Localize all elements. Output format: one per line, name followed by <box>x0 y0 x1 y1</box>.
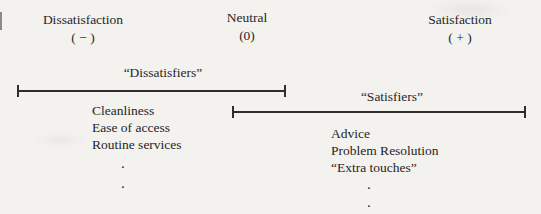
list-item: Routine services <box>92 136 182 153</box>
pole-satisfaction: Satisfaction ( + ) <box>400 11 520 47</box>
list-item: Ease of access <box>92 119 182 136</box>
pole-dissatisfaction-sign: ( − ) <box>23 29 143 47</box>
list-item: Cleanliness <box>92 102 182 119</box>
ellipsis-dot: . <box>121 157 125 169</box>
pole-dissatisfaction-label: Dissatisfaction <box>23 11 143 29</box>
ellipsis-dot: . <box>121 177 125 189</box>
pole-satisfaction-sign: ( + ) <box>400 29 520 47</box>
ellipsis-dot: . <box>367 196 371 208</box>
satisfiers-right-endcap <box>524 106 526 118</box>
dissatisfiers-range-bar <box>17 85 286 97</box>
satisfiers-range-line <box>232 111 526 113</box>
satisfiers-left-endcap <box>232 106 234 118</box>
dissatisfiers-range-line <box>17 90 286 92</box>
dissatisfiers-left-endcap <box>17 85 19 97</box>
ellipsis-dot: . <box>367 178 371 190</box>
dissatisfiers-list: Cleanliness Ease of access Routine servi… <box>92 102 182 154</box>
pole-dissatisfaction: Dissatisfaction ( − ) <box>23 11 143 47</box>
pole-satisfaction-label: Satisfaction <box>400 11 520 29</box>
pole-neutral-sign: (0) <box>187 27 307 45</box>
pole-neutral: Neutral (0) <box>187 9 307 45</box>
satisfiers-title: “Satisfiers” <box>292 88 492 105</box>
dissatisfiers-right-endcap <box>284 85 286 97</box>
list-item: Advice <box>331 125 439 142</box>
list-item: “Extra touches” <box>331 159 439 176</box>
dissatisfiers-title: “Dissatisfiers” <box>63 64 263 81</box>
satisfiers-range-bar <box>232 106 526 118</box>
service-satisfaction-continuum-diagram: Dissatisfaction ( − ) Neutral (0) Satisf… <box>0 0 541 214</box>
pole-neutral-label: Neutral <box>187 9 307 27</box>
satisfiers-list: Advice Problem Resolution “Extra touches… <box>331 125 439 177</box>
list-item: Problem Resolution <box>331 142 439 159</box>
scan-edge-artifact <box>0 12 2 30</box>
